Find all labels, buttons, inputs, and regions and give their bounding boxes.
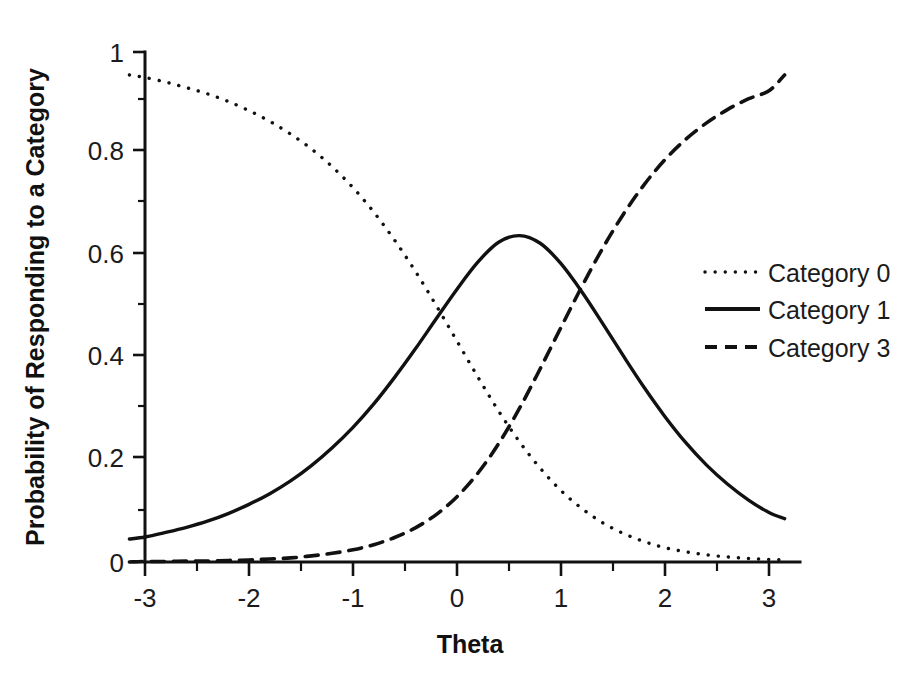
chart-figure: 1 0.8 0.6 0.4 0.2 0 -3 -2 -1 xyxy=(0,0,918,673)
y-tick-label-0-4: 0.4 xyxy=(88,341,124,371)
legend-label-category-0: Category 0 xyxy=(768,259,890,287)
y-tick-label-1: 1 xyxy=(110,38,124,68)
x-axis-tick-labels: -3 -2 -1 0 1 2 3 xyxy=(133,583,776,613)
x-tick-label-neg1: -1 xyxy=(341,583,364,613)
x-tick-label-neg3: -3 xyxy=(133,583,156,613)
axis-lines xyxy=(145,52,800,562)
data-curves xyxy=(129,75,784,562)
legend-label-category-1: Category 1 xyxy=(768,296,890,324)
legend-item-category-3[interactable]: Category 3 xyxy=(705,334,890,362)
y-axis-ticks xyxy=(133,52,145,562)
y-axis-title: Probability of Responding to a Category xyxy=(21,68,49,546)
x-tick-label-1: 1 xyxy=(554,583,568,613)
y-tick-label-0-8: 0.8 xyxy=(88,136,124,166)
curve-category-1 xyxy=(129,236,784,539)
category-response-curves-plot: 1 0.8 0.6 0.4 0.2 0 -3 -2 -1 xyxy=(0,0,918,673)
x-tick-label-3: 3 xyxy=(762,583,776,613)
x-axis-ticks xyxy=(145,562,769,576)
chart-legend: Category 0 Category 1 Category 3 xyxy=(705,259,890,362)
curve-category-0 xyxy=(129,75,784,560)
y-axis-tick-labels: 1 0.8 0.6 0.4 0.2 0 xyxy=(88,38,124,578)
x-tick-label-2: 2 xyxy=(658,583,672,613)
y-tick-label-0-6: 0.6 xyxy=(88,239,124,269)
legend-label-category-3: Category 3 xyxy=(768,334,890,362)
x-tick-label-0: 0 xyxy=(450,583,464,613)
x-tick-label-neg2: -2 xyxy=(237,583,260,613)
y-tick-label-0-2: 0.2 xyxy=(88,443,124,473)
legend-item-category-0[interactable]: Category 0 xyxy=(705,259,890,287)
y-tick-label-0: 0 xyxy=(110,548,124,578)
curve-category-3 xyxy=(129,75,784,562)
legend-item-category-1[interactable]: Category 1 xyxy=(705,296,890,324)
x-axis-title: Theta xyxy=(437,630,505,658)
